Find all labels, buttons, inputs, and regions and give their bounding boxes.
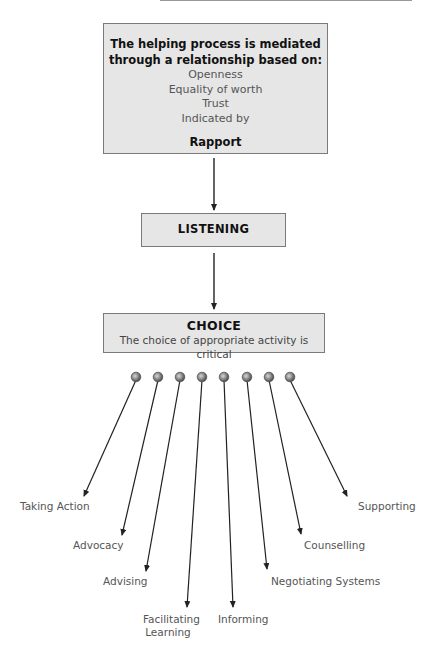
relationship-item-openness: Openness [104,68,327,83]
label-informing: Informing [218,613,268,626]
label-advising: Advising [103,575,148,588]
label-negotiating-systems: Negotiating Systems [271,575,380,588]
relationship-item-equality: Equality of worth [104,83,327,98]
node-dot [197,372,207,382]
activity-nodes [131,372,295,382]
arrow-informing [224,380,233,607]
choice-box: CHOICE The choice of appropriate activit… [103,313,325,353]
relationship-box: The helping process is mediated through … [103,23,328,154]
relationship-heading-line1: The helping process is mediated [104,36,327,52]
label-counselling: Counselling [304,539,365,552]
node-dot [285,372,295,382]
node-dot [219,372,229,382]
relationship-item-indicated-by: Indicated by [104,112,327,127]
arrow-taking-action [84,380,136,496]
arrow-negotiating-systems [247,380,267,569]
arrow-facilitating-learning [187,380,202,607]
activity-arrows [84,380,347,607]
arrow-counselling [269,380,301,534]
node-dot [131,372,141,382]
label-learning: Learning [143,626,193,639]
relationship-item-trust: Trust [104,97,327,112]
node-dot [153,372,163,382]
listening-box: LISTENING [141,213,286,247]
arrow-supporting [290,380,347,496]
label-taking-action: Taking Action [20,500,90,513]
node-dot [264,372,274,382]
choice-title: CHOICE [104,318,324,333]
arrow-advocacy [122,380,158,535]
label-facilitating-learning: Facilitating Learning [143,613,193,639]
relationship-heading-line2: through a relationship based on: [104,52,327,68]
relationship-rapport: Rapport [104,135,327,149]
listening-label: LISTENING [142,214,285,245]
label-advocacy: Advocacy [73,539,124,552]
label-facilitating: Facilitating [143,613,193,626]
label-supporting: Supporting [358,500,416,513]
choice-subtitle: The choice of appropriate activity is cr… [104,333,324,361]
node-dot [175,372,185,382]
node-dot [242,372,252,382]
